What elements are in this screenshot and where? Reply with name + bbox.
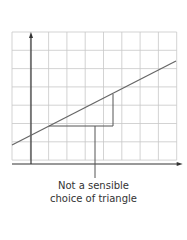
grid	[12, 32, 177, 160]
straight-line-graph	[12, 61, 176, 145]
caption-line-2: choice of triangle	[0, 193, 187, 205]
x-axis-arrow-icon	[177, 162, 183, 166]
y-axis-arrow-icon	[29, 32, 33, 38]
caption-line-1: Not a sensible	[0, 180, 187, 192]
